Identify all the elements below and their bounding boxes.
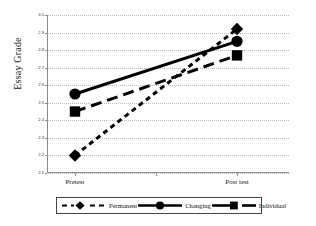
chart-legend: Permanent Changing Individual [56,197,262,214]
series-individual [70,50,242,117]
x-tick-label: Post test [225,178,249,186]
data-point-marker [232,50,242,60]
y-tick-label: 2.9 [38,30,44,34]
y-tick-label: 2.5 [38,101,44,105]
x-tick-label: Pretest [65,178,84,186]
y-tick-label: 2.4 [38,118,44,122]
series-changing [69,36,242,100]
legend-label-individual: Individual [259,202,286,209]
y-tick-label: 3.0 [38,13,44,17]
series-plot [47,15,289,173]
gridline [48,173,289,174]
circle-marker-icon [137,200,183,211]
series-line [75,55,237,111]
data-point-marker [231,36,242,47]
y-axis-title: Essay Grade [12,9,23,119]
series-line [75,41,237,94]
y-tick-label: 2.3 [38,136,44,140]
square-marker-icon [211,200,257,211]
essay-grade-figure: Essay Grade 3.02.92.82.72.62.52.42.32.22… [0,0,316,226]
y-tick-label: 2.8 [38,48,44,52]
legend-item-changing[interactable]: Changing [137,200,211,211]
y-tick-label: 2.6 [38,83,44,87]
legend-label-permanent: Permanent [109,202,137,209]
diamond-marker-icon [61,200,107,211]
y-tick-label: 2.2 [38,153,44,157]
y-tick-mark [45,173,47,174]
data-point-marker [69,149,81,161]
series-permanent [69,23,243,162]
y-tick-label: 2.7 [38,66,44,70]
y-tick-label: 2.1 [38,171,44,175]
legend-item-individual[interactable]: Individual [211,200,286,211]
legend-item-permanent[interactable]: Permanent [61,200,137,211]
data-point-marker [70,106,80,116]
legend-label-changing: Changing [185,202,211,209]
plot-area: 3.02.92.82.72.62.52.42.32.22.1 PretestPo… [47,15,289,173]
data-point-marker [69,88,80,99]
